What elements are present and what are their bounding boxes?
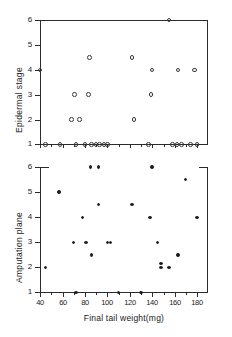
data-point [44, 266, 47, 269]
xtick-bottom-170 [186, 293, 187, 295]
ytick-label-bottom-5: 5 [18, 188, 32, 196]
xtick-label-180: 180 [186, 299, 208, 307]
ytick-bottom-4 [35, 217, 40, 218]
data-point [90, 253, 93, 256]
ytick-bottom-3 [35, 242, 40, 243]
xtick-bottom-140 [152, 293, 153, 297]
ytick-bottom-2 [35, 267, 40, 268]
xtick-bottom-40 [40, 293, 41, 297]
xtick-label-140: 140 [141, 299, 163, 307]
data-point [72, 241, 75, 244]
data-point [156, 241, 159, 244]
data-point [109, 241, 112, 244]
xtick-bottom-50 [51, 293, 52, 295]
ytick-label-bottom-1: 1 [18, 288, 32, 296]
data-point [159, 266, 162, 269]
data-point [84, 241, 87, 244]
ytick-bottom-6 [35, 167, 40, 168]
xtick-bottom-150 [164, 293, 165, 295]
data-point [97, 203, 100, 206]
axis-right-border-bottom [207, 167, 208, 293]
data-point [150, 165, 153, 168]
xtick-bottom-120 [130, 293, 131, 297]
data-point [57, 190, 60, 193]
xtick-bottom-180 [197, 293, 198, 297]
axis-top-border-bottom [40, 167, 49, 168]
xtick-bottom-160 [175, 293, 176, 297]
data-point [74, 291, 77, 294]
xtick-bottom-80 [85, 293, 86, 297]
ytick-label-bottom-3: 3 [18, 238, 32, 246]
axis-y-bottom [40, 167, 41, 293]
xtick-label-80: 80 [74, 299, 96, 307]
ytick-label-bottom-6: 6 [18, 163, 32, 171]
data-point [139, 291, 142, 294]
xtick-bottom-60 [63, 293, 64, 297]
xtick-bottom-100 [107, 293, 108, 297]
data-point [148, 216, 151, 219]
data-point [176, 253, 179, 256]
data-point [81, 216, 84, 219]
data-point [195, 216, 198, 219]
xtick-label-100: 100 [96, 299, 118, 307]
data-point [130, 203, 133, 206]
axis-x-bottom [40, 292, 208, 293]
axis-label-y-bottom: Amputation plane [14, 212, 24, 283]
xtick-label-120: 120 [119, 299, 141, 307]
panel-amputation-plane: Amputation plane 6 5 4 3 2 1 [0, 0, 232, 337]
ytick-bottom-5 [35, 192, 40, 193]
ytick-label-bottom-2: 2 [18, 263, 32, 271]
data-point [184, 178, 187, 181]
xtick-label-160: 160 [164, 299, 186, 307]
xtick-label-40: 40 [29, 299, 51, 307]
data-point [159, 262, 162, 265]
xtick-label-60: 60 [52, 299, 74, 307]
data-point [97, 165, 100, 168]
data-point [167, 266, 170, 269]
figure-scatter-plots: Epidermal stage 6 5 4 3 2 1 [0, 0, 232, 337]
ytick-label-bottom-4: 4 [18, 213, 32, 221]
axis-label-x: Final tail weight(mg) [40, 313, 208, 323]
xtick-bottom-90 [96, 293, 97, 295]
data-point [89, 165, 92, 168]
